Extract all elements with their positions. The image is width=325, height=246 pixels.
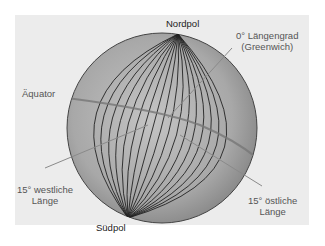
prime-meridian-label-line2: (Greenwich) — [236, 41, 298, 52]
east-longitude-label: 15° östliche Länge — [248, 195, 297, 217]
west-longitude-label-line2: Länge — [17, 195, 73, 206]
prime-meridian-label-line1: 0° Längengrad — [236, 30, 298, 41]
east-longitude-label-line2: Länge — [248, 206, 297, 217]
south-pole-label: Südpol — [96, 222, 126, 233]
west-longitude-label: 15° westliche Länge — [17, 184, 73, 206]
prime-meridian-label: 0° Längengrad (Greenwich) — [236, 30, 298, 52]
west-longitude-label-line1: 15° westliche — [17, 184, 73, 195]
east-longitude-label-line1: 15° östliche — [248, 195, 297, 206]
equator-label: Äquator — [22, 88, 55, 99]
north-pole-label: Nordpol — [166, 18, 199, 29]
